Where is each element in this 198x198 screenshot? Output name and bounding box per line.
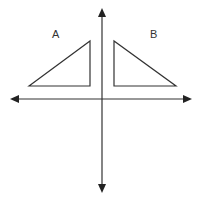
triangle-a	[29, 41, 90, 86]
arrow-right-icon	[183, 95, 192, 103]
arrow-down-icon	[98, 184, 106, 193]
triangle-b	[114, 41, 176, 86]
label-b: B	[150, 28, 157, 40]
label-a: A	[52, 28, 59, 40]
arrow-left-icon	[10, 95, 19, 103]
arrow-up-icon	[98, 8, 106, 17]
coordinate-plane	[0, 0, 198, 198]
